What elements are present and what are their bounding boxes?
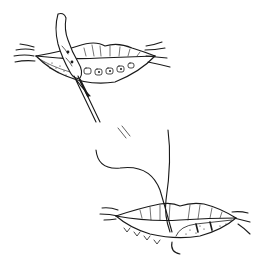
bottom-lip-drawing: [96, 126, 250, 254]
top-lip-drawing: [14, 14, 170, 123]
illustration-canvas: [0, 0, 267, 267]
lip-surgery-illustration: [0, 0, 267, 267]
